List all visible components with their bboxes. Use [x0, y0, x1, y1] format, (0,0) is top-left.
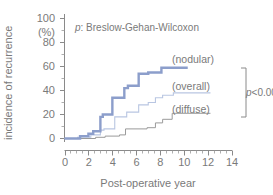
- statistical-test-caption: p: Breslow-Gehan-Wilcoxon: [74, 22, 199, 33]
- x-axis-title: Post-operative year: [100, 177, 196, 189]
- legend-label-diffuse: (diffuse): [172, 103, 210, 115]
- test-name-rest: : Breslow-Gehan-Wilcoxon: [81, 22, 199, 33]
- recurrence-incidence-chart: incidence of recurrence 100 (%) 80 60 40…: [0, 0, 273, 195]
- y-tick-label-60: 60: [43, 60, 55, 72]
- x-tick-label-0: 0: [62, 156, 68, 168]
- x-tick-label-4: 4: [110, 156, 116, 168]
- x-axis-ticks: [66, 151, 233, 156]
- x-tick-label-6: 6: [134, 156, 140, 168]
- curve-nodular: [65, 68, 188, 139]
- y-axis-ticks: [60, 19, 65, 139]
- x-tick-label-8: 8: [157, 156, 163, 168]
- chart-svg: incidence of recurrence 100 (%) 80 60 40…: [0, 0, 273, 195]
- curve-diffuse: [65, 113, 211, 138]
- y-tick-label-40: 40: [43, 84, 55, 96]
- pvalue-annotation: p<0.001: [245, 87, 273, 98]
- x-tick-label-2: 2: [86, 156, 92, 168]
- curve-overall: [65, 93, 211, 139]
- x-tick-label-12: 12: [202, 156, 214, 168]
- y-axis-title: incidence of recurrence: [2, 26, 14, 140]
- legend-label-overall: (overall): [172, 80, 210, 92]
- pvalue-rest: <0.001: [252, 87, 273, 98]
- x-tick-label-10: 10: [178, 156, 190, 168]
- legend-label-nodular: (nodular): [172, 53, 214, 65]
- y-tick-label-0: 0: [49, 132, 55, 144]
- y-tick-label-20: 20: [43, 108, 55, 120]
- y-tick-label-80: 80: [43, 36, 55, 48]
- x-tick-label-14: 14: [226, 156, 238, 168]
- y-tick-label-100: 100: [37, 12, 55, 24]
